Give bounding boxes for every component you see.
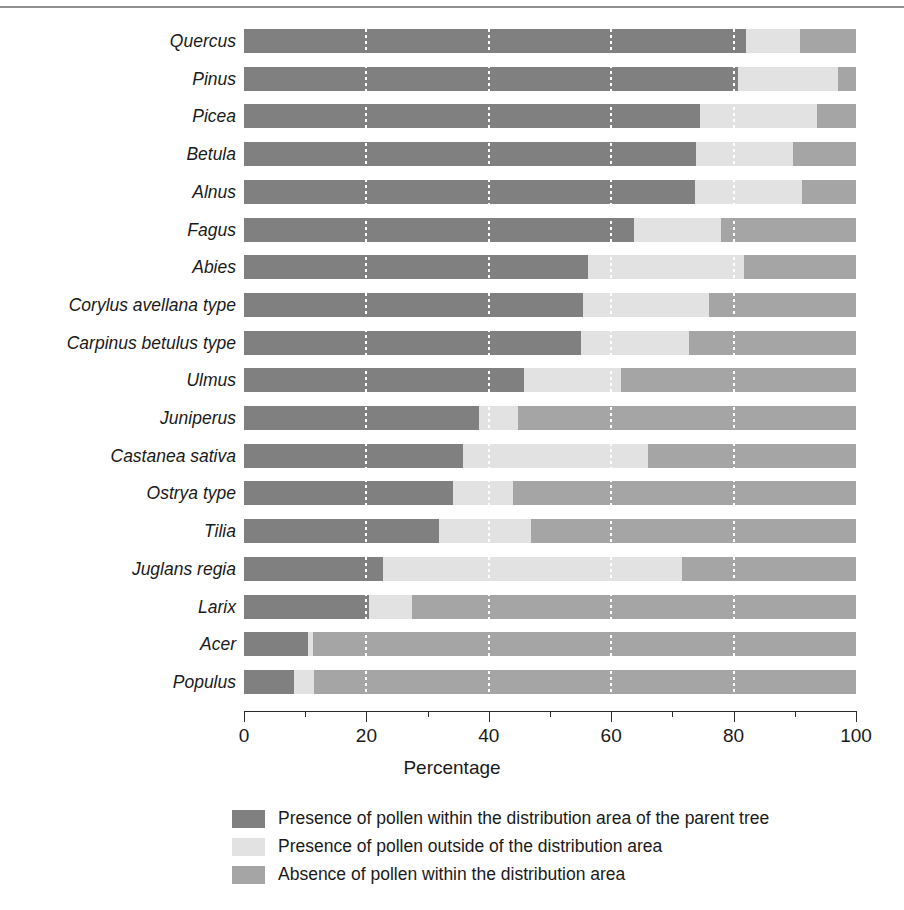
x-tick-label-40: 40 [478,725,499,747]
y-axis-label-acer: Acer [0,632,236,656]
bar-segment-series-2 [838,67,856,91]
bar-segment-series-0 [244,331,581,355]
y-axis-label-corylus-avellana-type: Corylus avellana type [0,293,236,317]
bar-segment-series-0 [244,255,588,279]
bar-row [244,444,856,468]
x-tick-100 [856,711,857,722]
x-minor-tick-50 [550,711,551,717]
bar-row [244,670,856,694]
bar-row [244,67,856,91]
bar-row [244,331,856,355]
top-divider-rule [0,6,904,8]
bar-row [244,557,856,581]
bar-segment-series-2 [412,595,856,619]
y-axis-label-larix: Larix [0,595,236,619]
x-minor-tick-10 [305,711,306,717]
bar-row [244,29,856,53]
bar-segment-series-0 [244,67,738,91]
bar-segment-series-1 [581,331,689,355]
chart-legend: Presence of pollen within the distributi… [232,806,892,890]
legend-swatch-1 [232,838,265,856]
legend-item-2: Absence of pollen within the distributio… [232,862,892,887]
bar-row [244,142,856,166]
x-tick-0 [244,711,245,722]
x-axis-title: Percentage [0,757,904,779]
y-axis-label-fagus: Fagus [0,218,236,242]
x-minor-tick-90 [795,711,796,717]
x-tick-label-80: 80 [723,725,744,747]
bar-segment-series-1 [695,180,802,204]
bar-segment-series-0 [244,293,583,317]
chart-root: QuercusPinusPiceaBetulaAlnusFagusAbiesCo… [0,0,904,910]
bar-row [244,519,856,543]
y-axis-label-castanea-sativa: Castanea sativa [0,444,236,468]
bar-segment-series-2 [802,180,856,204]
bar-segment-series-1 [746,29,800,53]
bar-segment-series-2 [314,670,856,694]
legend-swatch-0 [232,810,265,828]
bar-segment-series-2 [689,331,856,355]
bar-segment-series-0 [244,218,634,242]
bar-row [244,104,856,128]
bar-segment-series-1 [583,293,709,317]
bar-row [244,595,856,619]
bar-segment-series-2 [817,104,856,128]
y-axis-label-quercus: Quercus [0,29,236,53]
bar-segment-series-0 [244,670,294,694]
x-tick-80 [734,711,735,722]
bar-segment-series-1 [524,368,621,392]
bar-segment-series-2 [721,218,856,242]
y-axis-label-alnus: Alnus [0,180,236,204]
bar-segment-series-0 [244,519,439,543]
legend-item-0: Presence of pollen within the distributi… [232,806,892,831]
y-axis-label-carpinus-betulus-type: Carpinus betulus type [0,331,236,355]
bar-segment-series-1 [294,670,314,694]
y-axis-label-picea: Picea [0,104,236,128]
x-tick-60 [611,711,612,722]
bar-segment-series-1 [634,218,721,242]
bar-segment-series-1 [463,444,648,468]
bar-row [244,255,856,279]
x-tick-label-0: 0 [239,725,250,747]
bar-row [244,293,856,317]
bar-row [244,481,856,505]
legend-swatch-2 [232,866,265,884]
bar-row [244,632,856,656]
x-minor-tick-70 [672,711,673,717]
bar-segment-series-0 [244,481,453,505]
bar-segment-series-1 [369,595,412,619]
x-tick-label-20: 20 [356,725,377,747]
bar-segment-series-1 [453,481,513,505]
y-axis-label-juniperus: Juniperus [0,406,236,430]
bar-segment-series-0 [244,104,700,128]
bar-segment-series-2 [513,481,856,505]
y-axis-label-betula: Betula [0,142,236,166]
y-axis-label-abies: Abies [0,255,236,279]
y-axis-label-ulmus: Ulmus [0,368,236,392]
x-tick-40 [489,711,490,722]
bar-segment-series-2 [518,406,856,430]
bar-segment-series-2 [709,293,856,317]
bar-segment-series-0 [244,406,479,430]
bar-segment-series-2 [648,444,856,468]
bar-segment-series-0 [244,368,524,392]
bar-segment-series-1 [738,67,838,91]
bar-segment-series-0 [244,29,746,53]
bar-segment-series-2 [800,29,856,53]
x-minor-tick-30 [428,711,429,717]
bar-segment-series-2 [682,557,856,581]
bar-row [244,180,856,204]
y-axis-label-populus: Populus [0,670,236,694]
plot-area [244,29,856,711]
y-axis-category-labels: QuercusPinusPiceaBetulaAlnusFagusAbiesCo… [0,29,236,711]
bar-segment-series-1 [439,519,531,543]
x-tick-20 [366,711,367,722]
bar-segment-series-2 [793,142,856,166]
x-tick-label-100: 100 [840,725,872,747]
bar-segment-series-2 [531,519,856,543]
bar-segment-series-1 [383,557,682,581]
bar-segment-series-1 [696,142,793,166]
bar-segment-series-0 [244,444,463,468]
bar-segment-series-1 [700,104,817,128]
y-axis-label-tilia: Tilia [0,519,236,543]
